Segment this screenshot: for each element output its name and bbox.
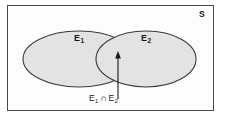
intersection-operator-symbol: ∩ (99, 93, 109, 103)
intersection-caption: E1∩E2 (89, 93, 118, 103)
caption-left-subscript: 1 (95, 98, 99, 104)
venn-diagram-figure: E1 E2 S E1∩E2 (0, 0, 247, 122)
set-label-e1-subscript: 1 (80, 37, 84, 44)
set-label-e1: E1 (74, 33, 84, 43)
venn-diagram-canvas (0, 0, 247, 122)
set-label-e2-subscript: 2 (147, 37, 151, 44)
caption-right-subscript: 2 (114, 98, 118, 104)
set-ellipses (23, 31, 196, 87)
set-label-e2: E2 (141, 33, 151, 43)
universal-set-label: S (199, 9, 205, 19)
